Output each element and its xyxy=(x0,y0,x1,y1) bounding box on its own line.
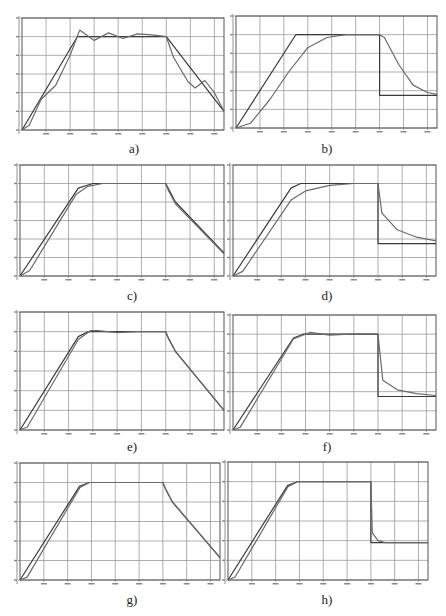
reference-line xyxy=(228,482,428,580)
panel-label-b: b) xyxy=(322,141,333,157)
panel-label-g: g) xyxy=(127,592,138,608)
chart-panel-b xyxy=(236,16,437,128)
reference-line xyxy=(20,184,224,277)
chart-panel-a xyxy=(22,18,224,130)
reference-line xyxy=(233,184,436,277)
panel-label-f: f) xyxy=(323,439,332,455)
reference-line xyxy=(22,37,224,130)
response-line xyxy=(233,332,436,430)
reference-line xyxy=(20,332,224,430)
chart-panel-e xyxy=(20,312,224,430)
reference-line xyxy=(236,35,437,128)
panel-label-a: a) xyxy=(129,141,139,157)
panel-label-h: h) xyxy=(322,592,333,608)
chart-panel-d xyxy=(233,165,436,276)
panel-label-e: e) xyxy=(127,439,137,455)
panel-label-d: d) xyxy=(322,288,333,304)
reference-line xyxy=(233,334,436,430)
chart-panel-c xyxy=(20,165,224,276)
chart-panel-g xyxy=(20,463,220,580)
response-line xyxy=(228,482,428,580)
chart-panel-f xyxy=(233,315,436,430)
reference-line xyxy=(20,483,220,581)
response-line xyxy=(20,483,220,581)
chart-panel-h xyxy=(228,462,428,580)
panel-label-c: c) xyxy=(127,288,137,304)
